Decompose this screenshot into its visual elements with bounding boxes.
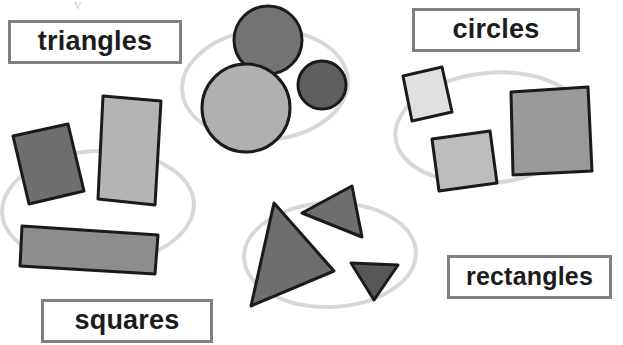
shape-polygon[interactable] — [511, 87, 592, 175]
label-text-circles: circles — [453, 16, 540, 45]
shape-polygon[interactable] — [432, 131, 497, 191]
rectangles-group — [0, 96, 197, 274]
shape-polygon[interactable] — [98, 96, 161, 205]
label-box-squares[interactable]: squares — [41, 299, 213, 343]
label-text-squares: squares — [75, 307, 180, 336]
shape-polygon[interactable] — [302, 186, 362, 237]
shape-polygon[interactable] — [403, 67, 452, 121]
label-text-triangles: triangles — [38, 28, 152, 57]
shape-circle[interactable] — [298, 61, 346, 109]
shape-polygon[interactable] — [351, 263, 398, 300]
shape-polygon[interactable] — [20, 226, 158, 274]
triangles-group — [242, 186, 418, 310]
label-box-triangles[interactable]: triangles — [8, 20, 182, 64]
tick-mark-icon: v — [74, 0, 82, 12]
label-text-rectangles: rectangles — [466, 264, 593, 291]
circles-group — [178, 6, 351, 152]
shape-polygon[interactable] — [13, 124, 84, 204]
shape-circle[interactable] — [202, 64, 290, 152]
label-box-rectangles[interactable]: rectangles — [447, 255, 612, 299]
label-box-circles[interactable]: circles — [412, 8, 580, 52]
worksheet-canvas: v triangles circles rectangles squares — [0, 0, 623, 345]
squares-group — [390, 63, 592, 192]
